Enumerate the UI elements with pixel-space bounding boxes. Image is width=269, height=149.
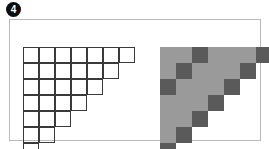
outline-cell-r2-c1 xyxy=(23,63,39,79)
shaded-light-cell-r2-c3 xyxy=(192,63,208,79)
outline-cell-r1-c2 xyxy=(39,47,55,63)
shaded-light-cell-r2-c4 xyxy=(208,63,224,79)
outline-cell-r1-c5 xyxy=(87,47,103,63)
shaded-dark-cell-r2-c6 xyxy=(240,63,256,79)
shaded-light-cell-r2-c1 xyxy=(160,63,176,79)
outline-cell-r4-c3 xyxy=(55,95,71,111)
outline-cell-r2-c5 xyxy=(87,63,103,79)
shaded-dark-cell-r6-c2 xyxy=(176,127,192,143)
shaded-light-cell-r4-c3 xyxy=(192,95,208,111)
outline-cell-r4-c2 xyxy=(39,95,55,111)
outline-cell-r3-c3 xyxy=(55,79,71,95)
shaded-staircase-grid xyxy=(160,47,269,149)
outline-cell-r6-c1 xyxy=(23,127,39,143)
shaded-light-cell-r3-c2 xyxy=(176,79,192,95)
outline-cell-r2-c2 xyxy=(39,63,55,79)
outline-cell-r4-c1 xyxy=(23,95,39,111)
outline-cell-r2-c4 xyxy=(71,63,87,79)
outline-cell-r6-c2 xyxy=(39,127,55,143)
shaded-dark-cell-r5-c3 xyxy=(192,111,208,127)
shaded-light-cell-r1-c6 xyxy=(240,47,256,63)
shaded-light-cell-r3-c3 xyxy=(192,79,208,95)
shaded-light-cell-r4-c2 xyxy=(176,95,192,111)
filled-circle-number-icon: 4 xyxy=(6,2,21,17)
shaded-dark-cell-r1-c7 xyxy=(256,47,269,63)
shaded-light-cell-r6-c1 xyxy=(160,127,176,143)
shaded-dark-cell-r1-c3 xyxy=(192,47,208,63)
shaded-dark-cell-r3-c5 xyxy=(224,79,240,95)
shaded-light-cell-r5-c2 xyxy=(176,111,192,127)
shaded-light-cell-r2-c5 xyxy=(224,63,240,79)
outline-cell-r1-c3 xyxy=(55,47,71,63)
shaded-light-cell-r4-c1 xyxy=(160,95,176,111)
outline-cell-r4-c4 xyxy=(71,95,87,111)
outline-cell-r3-c5 xyxy=(87,79,103,95)
shaded-dark-cell-r4-c4 xyxy=(208,95,224,111)
outline-cell-r1-c1 xyxy=(23,47,39,63)
outline-cell-r3-c4 xyxy=(71,79,87,95)
outline-cell-r5-c2 xyxy=(39,111,55,127)
outline-cell-r5-c3 xyxy=(55,111,71,127)
panel-frame xyxy=(9,19,261,141)
outline-cell-r3-c2 xyxy=(39,79,55,95)
shaded-light-cell-r1-c2 xyxy=(176,47,192,63)
outline-cell-r2-c3 xyxy=(55,63,71,79)
figure-root: 4 xyxy=(0,0,269,149)
outline-cell-r1-c7 xyxy=(119,47,135,63)
outline-staircase-grid xyxy=(23,47,135,149)
shaded-light-cell-r1-c1 xyxy=(160,47,176,63)
shaded-light-cell-r1-c5 xyxy=(224,47,240,63)
shaded-dark-cell-r3-c1 xyxy=(160,79,176,95)
outline-cell-r1-c4 xyxy=(71,47,87,63)
shaded-light-cell-r5-c1 xyxy=(160,111,176,127)
outline-cell-r2-c6 xyxy=(103,63,119,79)
shaded-dark-cell-r7-c1 xyxy=(160,143,176,149)
shaded-light-cell-r1-c4 xyxy=(208,47,224,63)
outline-cell-r5-c1 xyxy=(23,111,39,127)
shaded-dark-cell-r2-c2 xyxy=(176,63,192,79)
outline-cell-r1-c6 xyxy=(103,47,119,63)
shaded-light-cell-r3-c4 xyxy=(208,79,224,95)
outline-cell-r3-c1 xyxy=(23,79,39,95)
outline-cell-r7-c1 xyxy=(23,143,39,149)
